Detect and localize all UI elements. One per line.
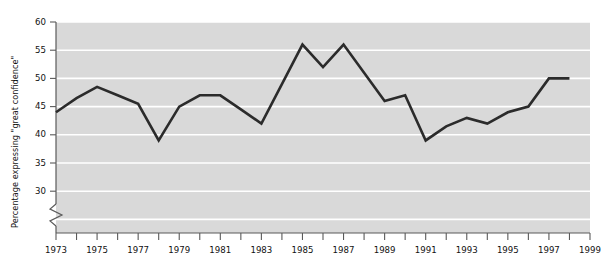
y-tick-label: 35: [35, 158, 46, 168]
x-tick-label: 1987: [333, 245, 355, 255]
x-tick-marks: [56, 233, 590, 240]
y-tick-labels: 60 55 50 45 40 35 30: [35, 17, 46, 196]
x-tick-label: 1973: [45, 245, 67, 255]
y-tick-marks: [50, 22, 56, 191]
y-tick-label: 40: [35, 129, 46, 139]
x-tick-label: 1985: [292, 245, 314, 255]
y-tick-label: 30: [35, 186, 46, 196]
x-tick-label: 1995: [497, 245, 519, 255]
x-tick-label: 1975: [86, 245, 108, 255]
x-tick-label: 1993: [456, 245, 478, 255]
line-chart: 60 55 50 45 40 35 30 Percentage expressi…: [0, 0, 615, 271]
y-axis-title: Percentage expressing "great confidence": [10, 56, 20, 228]
y-tick-label: 45: [35, 101, 46, 111]
x-tick-labels: 1973 1975 1977 1979 1981 1983 1985 1987 …: [45, 245, 601, 255]
y-tick-label: 60: [35, 17, 46, 27]
x-tick-label: 1991: [415, 245, 437, 255]
chart-container: 60 55 50 45 40 35 30 Percentage expressi…: [0, 0, 615, 271]
y-tick-label: 50: [35, 73, 46, 83]
x-tick-label: 1981: [209, 245, 231, 255]
x-tick-label: 1979: [168, 245, 190, 255]
y-tick-label: 55: [35, 45, 46, 55]
plot-background: [56, 22, 590, 233]
x-tick-label: 1997: [538, 245, 560, 255]
x-tick-label: 1977: [127, 245, 149, 255]
x-tick-label: 1989: [374, 245, 396, 255]
x-tick-label: 1983: [250, 245, 272, 255]
x-tick-label: 1999: [579, 245, 601, 255]
